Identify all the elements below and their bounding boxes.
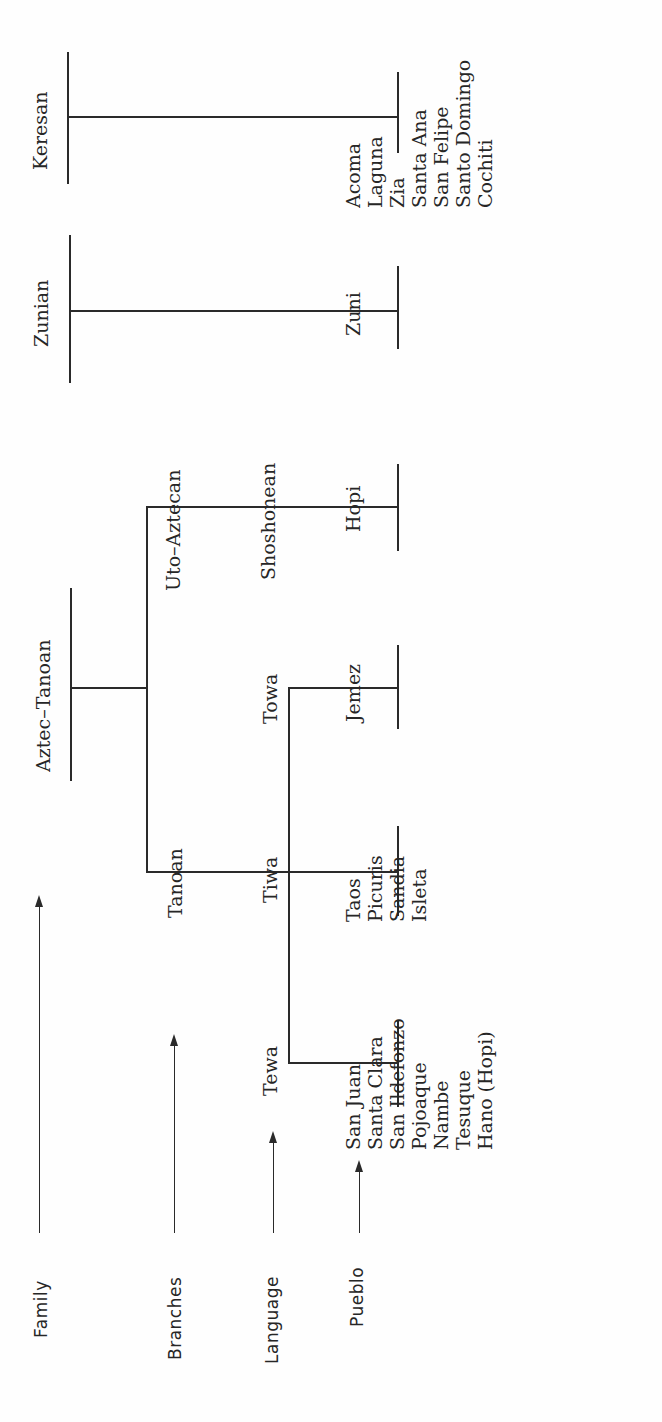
language-label-tewa: Tewa: [261, 1046, 280, 1096]
arrow-up-icon: [355, 1160, 363, 1172]
pueblo-san-felipe: San Felipe: [430, 60, 452, 208]
pueblo-isleta: Isleta: [408, 855, 430, 922]
branch-label-uto-aztecan: Uto–Aztecan: [164, 470, 183, 591]
pueblo-taos: Taos: [342, 855, 364, 922]
pueblo-santo-domingo: Santo Domingo: [452, 60, 474, 208]
language-label-towa: Towa: [261, 674, 280, 724]
jemez-pueblo-bar: [397, 645, 399, 729]
pueblo-laguna: Laguna: [364, 60, 386, 208]
pueblo-cochiti: Cochiti: [474, 60, 496, 208]
pueblo-hano-hopi: Hano (Hopi): [474, 1018, 496, 1150]
pueblo-santa-ana: Santa Ana: [408, 60, 430, 208]
language-split-line: [288, 687, 290, 1064]
pueblo-list-tewa: San Juan Santa Clara San Ildefonzo Pojoa…: [342, 1018, 496, 1150]
aztec-tanoan-connector: [70, 687, 148, 689]
pueblo-nambe: Nambe: [430, 1018, 452, 1150]
keresan-family-bar: [67, 52, 69, 184]
pueblo-sandia: Sandia: [386, 855, 408, 922]
pueblo-list-zunian: Zuni: [342, 292, 364, 336]
pueblo-zuni: Zuni: [342, 292, 364, 336]
pueblo-list-shoshonean: Hopi: [342, 486, 364, 532]
family-level-arrow-line: [39, 900, 40, 1233]
language-family-tree: Keresan Acoma Laguna Zia Santa Ana San F…: [0, 0, 662, 1422]
family-label-aztec-tanoan: Aztec–Tanoan: [34, 639, 53, 772]
pueblo-pojoaque: Pojoaque: [408, 1018, 430, 1150]
pueblo-level-arrow-line: [359, 1166, 360, 1233]
language-label-shoshonean: Shoshonean: [259, 463, 278, 580]
family-label-keresan: Keresan: [31, 91, 50, 170]
arrow-up-icon: [35, 895, 43, 907]
arrow-up-icon: [170, 1034, 178, 1046]
level-label-language: Language: [264, 1276, 281, 1364]
family-label-zunian: Zunian: [32, 280, 51, 347]
level-label-family: Family: [33, 1280, 50, 1338]
aztec-tanoan-family-bar: [70, 588, 72, 781]
pueblo-san-ildefonzo: San Ildefonzo: [386, 1018, 408, 1150]
level-label-pueblo: Pueblo: [349, 1267, 366, 1327]
pueblo-santa-clara: Santa Clara: [364, 1018, 386, 1150]
pueblo-tesuque: Tesuque: [452, 1018, 474, 1150]
language-label-tiwa: Tiwa: [261, 857, 280, 903]
zunian-family-bar: [69, 235, 71, 383]
pueblo-san-juan: San Juan: [342, 1018, 364, 1150]
pueblo-list-keresan: Acoma Laguna Zia Santa Ana San Felipe Sa…: [342, 60, 496, 208]
branches-level-arrow-line: [174, 1040, 175, 1233]
arrow-up-icon: [269, 1131, 277, 1143]
hopi-pueblo-bar: [397, 464, 399, 551]
pueblo-acoma: Acoma: [342, 60, 364, 208]
zunian-pueblo-bar: [397, 266, 399, 349]
language-level-arrow-line: [273, 1137, 274, 1233]
branch-label-tanoan: Tanoan: [166, 848, 185, 918]
pueblo-jemez: Jemez: [342, 664, 364, 722]
level-label-branches: Branches: [167, 1277, 184, 1360]
pueblo-list-tiwa: Taos Picuris Sandia Isleta: [342, 855, 430, 922]
pueblo-picuris: Picuris: [364, 855, 386, 922]
branch-split-line: [146, 506, 148, 873]
pueblo-hopi: Hopi: [342, 486, 364, 532]
pueblo-zia: Zia: [386, 60, 408, 208]
pueblo-list-towa: Jemez: [342, 664, 364, 722]
